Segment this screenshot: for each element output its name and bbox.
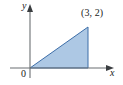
y-axis-label: y <box>22 1 26 11</box>
x-axis-label: x <box>110 68 114 78</box>
y-axis-arrow-icon <box>27 4 33 12</box>
origin-label: 0 <box>21 69 26 79</box>
vertex-point-label: (3, 2) <box>81 8 103 18</box>
plot-canvas <box>0 0 123 85</box>
coordinate-plane-figure: y x 0 (3, 2) <box>0 0 123 85</box>
shaded-triangle <box>30 27 88 68</box>
